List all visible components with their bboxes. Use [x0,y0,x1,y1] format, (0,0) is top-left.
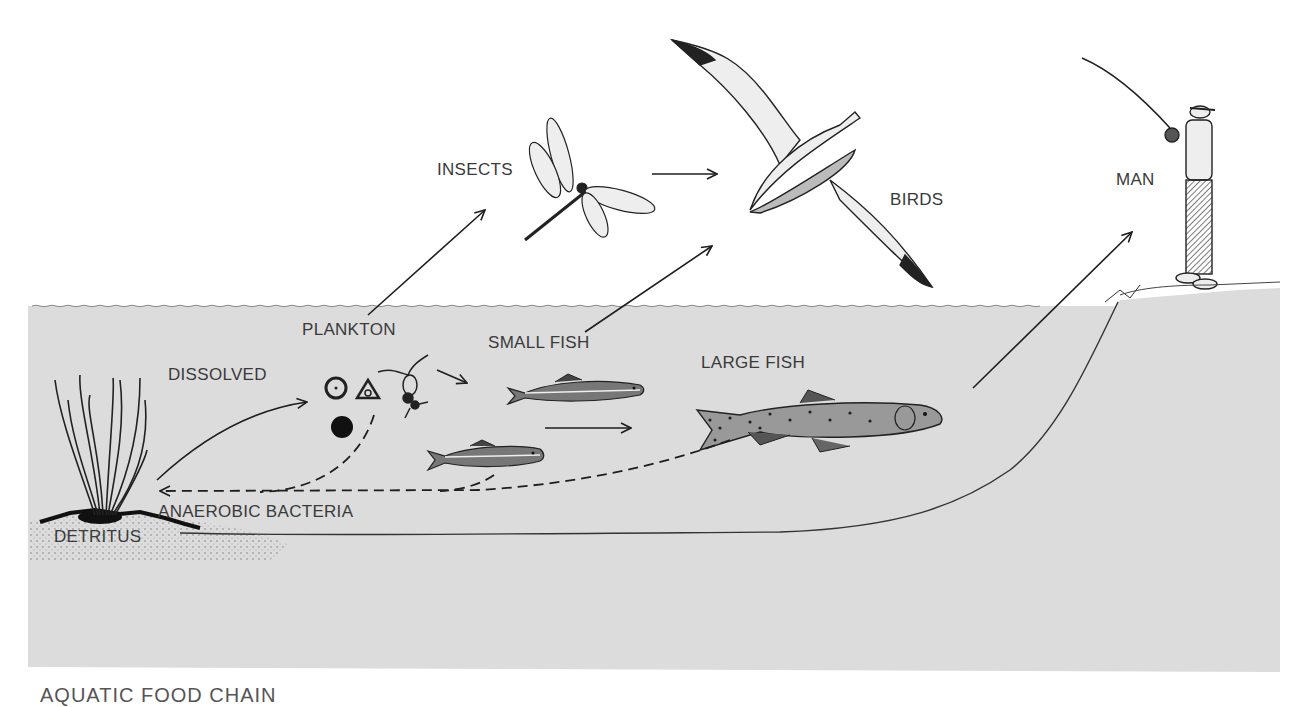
label-birds: BIRDS [890,190,943,210]
label-detritus: DETRITUS [54,527,141,547]
label-man: MAN [1116,170,1155,190]
bird-illustration [672,40,932,287]
label-insects: INSECTS [437,160,513,180]
label-small-fish: SMALL FISH [488,333,590,353]
fisherman-illustration [1082,58,1280,302]
label-dissolved: DISSOLVED [168,365,267,385]
label-anaerobic-bacteria: ANAEROBIC BACTERIA [158,502,353,522]
figure-caption: AQUATIC FOOD CHAIN [40,684,277,707]
water-body [28,288,1280,672]
dragonfly-illustration [523,116,657,241]
label-plankton: PLANKTON [302,320,396,340]
arrow-plankton-to-insects [368,210,485,315]
label-large-fish: LARGE FISH [701,353,805,373]
